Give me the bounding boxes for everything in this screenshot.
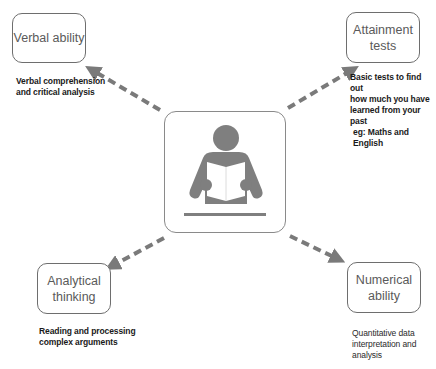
node-label: Verbal ability: [14, 30, 85, 46]
node-analytical-thinking: Analytical thinking: [37, 263, 111, 314]
person-reading-book-icon: [165, 112, 285, 232]
node-verbal-ability: Verbal ability: [12, 13, 86, 63]
node-description-attainment: Basic tests to find out how much you hav…: [350, 72, 436, 149]
arrow-to-attainment: [288, 70, 352, 108]
arrow-to-analytical: [112, 238, 164, 266]
node-description-analytical: Reading and processing complex arguments: [39, 326, 136, 348]
node-attainment-tests: Attainment tests: [346, 12, 420, 63]
center-icon-box: [164, 111, 286, 233]
node-description-verbal: Verbal comprehension and critical analys…: [16, 76, 105, 98]
node-description-numerical: Quantitative data interpretation and ana…: [352, 328, 416, 361]
node-numerical-ability: Numerical ability: [347, 262, 421, 313]
arrow-to-numerical: [290, 236, 338, 259]
